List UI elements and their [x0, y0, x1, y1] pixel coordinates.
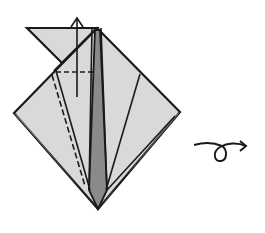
origami-diagram [0, 0, 265, 233]
turn-over-icon [194, 141, 246, 161]
